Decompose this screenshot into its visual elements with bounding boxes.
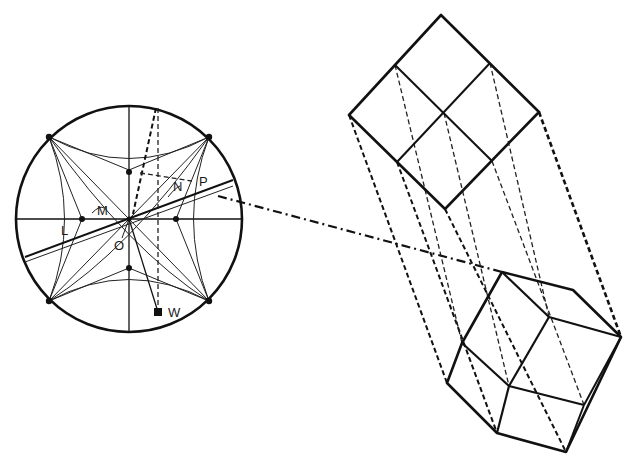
construction-line: [49, 268, 129, 301]
crystal-edge: [566, 405, 584, 452]
dashed-line-N: [140, 173, 192, 181]
label-W: W: [168, 305, 181, 320]
projection-line: [395, 65, 462, 343]
pole-dot-L: [79, 216, 85, 222]
pole-W-square: [154, 308, 162, 316]
line-O-W: [129, 219, 158, 312]
crystal-edge: [462, 343, 509, 386]
construction-line: [129, 268, 209, 301]
label-N: N: [173, 179, 182, 194]
diagram-svg: L M N P O W: [0, 0, 638, 463]
projection-line: [349, 115, 447, 383]
pole-dot: [46, 298, 52, 304]
upper-crystal: [349, 15, 539, 209]
pole-dot: [126, 169, 132, 175]
projection-lines: [349, 63, 621, 452]
crystal-edge: [509, 386, 584, 405]
crystal-outline: [447, 272, 621, 452]
projection-line: [445, 209, 566, 452]
label-P: P: [199, 174, 208, 189]
pole-dot: [206, 134, 212, 140]
stereogram: L M N P O W: [16, 106, 242, 332]
projection-line: [539, 112, 621, 337]
pole-dot: [46, 134, 52, 140]
square-divider-2: [397, 63, 490, 162]
crystal-edge: [584, 337, 621, 405]
pole-dot: [173, 216, 179, 222]
pole-dot: [126, 265, 132, 271]
label-O: O: [114, 238, 124, 253]
projection-ray: [218, 196, 502, 272]
label-L: L: [61, 223, 68, 238]
lower-crystal: [447, 272, 621, 452]
pole-dot-O: [127, 217, 132, 222]
pole-dot: [206, 298, 212, 304]
diagram-canvas: L M N P O W: [0, 0, 638, 463]
dashed-line-top-to-O: [133, 108, 156, 214]
crystal-edge: [497, 386, 509, 433]
projection-line: [397, 162, 497, 433]
label-M: M: [97, 203, 108, 218]
